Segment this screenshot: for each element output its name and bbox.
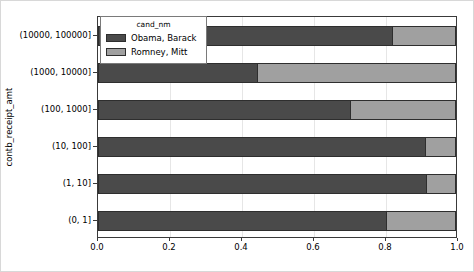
bar-row[interactable] [98,211,456,231]
x-tick-label: 0.8 [378,242,392,252]
x-tick-mark [313,238,314,241]
legend-title: cand_nm [106,20,201,30]
x-tick-mark [169,238,170,241]
bar-row[interactable] [98,100,456,120]
x-tick-label: 0.0 [90,242,104,252]
y-tick-label: (1, 10] [1,178,91,188]
gridline [242,17,243,237]
legend-swatch-obama [106,34,126,42]
x-tick-mark [241,238,242,241]
bar-row[interactable] [98,137,456,157]
bar-segment-romney[interactable] [392,26,456,46]
y-tick-label: (100, 1000] [1,104,91,114]
bar-segment-romney[interactable] [386,211,456,231]
y-tick-label: (10000, 100000] [1,30,91,40]
y-tick-label: (0, 1] [1,215,91,225]
bar-segment-obama[interactable] [98,100,350,120]
legend-label-romney: Romney, Mitt [131,47,187,57]
legend-swatch-romney [106,48,126,56]
x-tick-mark [385,238,386,241]
x-tick-label: 0.4 [234,242,248,252]
x-tick-mark [97,238,98,241]
bar-segment-romney[interactable] [350,100,456,120]
bar-segment-obama[interactable] [98,211,386,231]
chart-legend: cand_nm Obama, Barack Romney, Mitt [100,16,207,64]
x-tick-label: 0.2 [162,242,176,252]
y-axis-label: contb_receipt_amt [4,88,14,167]
legend-item-romney[interactable]: Romney, Mitt [106,45,201,59]
x-tick-mark [457,238,458,241]
legend-label-obama: Obama, Barack [131,33,197,43]
bar-segment-romney[interactable] [425,137,456,157]
x-tick-label: 1.0 [450,242,464,252]
bar-row[interactable] [98,63,456,83]
y-tick-label: (10, 100] [1,141,91,151]
bar-segment-obama[interactable] [98,137,425,157]
gridline [314,17,315,237]
bar-segment-romney[interactable] [426,174,456,194]
bar-segment-obama[interactable] [98,174,426,194]
chart-figure: contb_receipt_amt (0, 1](1, 10](10, 100]… [0,0,474,272]
bar-row[interactable] [98,174,456,194]
legend-item-obama[interactable]: Obama, Barack [106,31,201,45]
y-tick-label: (1000, 10000] [1,67,91,77]
x-tick-label: 0.6 [306,242,320,252]
bar-segment-obama[interactable] [98,63,257,83]
bar-segment-romney[interactable] [257,63,456,83]
gridline [386,17,387,237]
